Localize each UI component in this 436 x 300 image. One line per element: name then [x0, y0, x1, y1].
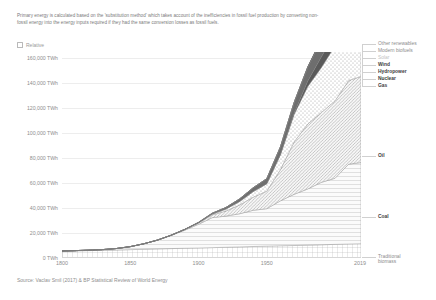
legend-item[interactable]: Nuclear [378, 76, 396, 82]
legend-leader-line [362, 79, 376, 80]
y-axis-tick-label: 80,000 TWh [30, 155, 58, 161]
legend-item[interactable]: Traditional biomass [378, 254, 412, 265]
legend-leader-line [362, 257, 376, 258]
legend-item[interactable]: Hydropower [378, 69, 407, 75]
y-axis-tick-label: 160,000 TWh [27, 55, 58, 61]
y-axis-tick-label: 100,000 TWh [27, 130, 58, 136]
legend-item[interactable]: Gas [378, 83, 387, 89]
plot-area: 0 TWh20,000 TWh40,000 TWh60,000 TWh80,00… [62, 52, 361, 258]
legend-item[interactable]: Oil [378, 153, 385, 159]
legend-item[interactable]: Solar [378, 55, 389, 61]
legend-item[interactable]: Coal [378, 214, 389, 220]
x-axis-tick-label: 2019 [354, 260, 366, 266]
legend-leader-line [362, 217, 376, 218]
legend-bracket [362, 44, 363, 86]
legend-item[interactable]: Modern biofuels [378, 48, 413, 54]
x-axis-line [62, 257, 361, 258]
relative-label: Relative [26, 42, 44, 48]
x-axis-tick-label: 1900 [193, 260, 205, 266]
y-axis-tick-label: 20,000 TWh [30, 230, 58, 236]
relative-toggle[interactable]: Relative [17, 42, 44, 48]
legend-leader-line [362, 58, 376, 59]
x-axis-tick-label: 1800 [56, 260, 68, 266]
y-axis-tick-label: 40,000 TWh [30, 205, 58, 211]
stacked-area-series [62, 52, 361, 258]
y-axis-tick-label: 140,000 TWh [27, 80, 58, 86]
chart-page: Primary energy is calculated based on th… [0, 0, 436, 300]
y-axis-tick-label: 120,000 TWh [27, 105, 58, 111]
legend-leader-line [362, 51, 376, 52]
legend-item[interactable]: Other renewables [378, 41, 417, 47]
legend-leader-line [362, 72, 376, 73]
legend-leader-line [362, 156, 376, 157]
source-note: Source: Vaclav Smil (2017) & BP Statisti… [17, 277, 168, 283]
relative-checkbox[interactable] [17, 42, 23, 48]
y-axis-tick-label: 60,000 TWh [30, 180, 58, 186]
legend-leader-line [362, 86, 376, 87]
x-axis-tick-label: 1850 [124, 260, 136, 266]
chart-subtitle: Primary energy is calculated based on th… [17, 12, 322, 27]
legend-leader-line [362, 44, 376, 45]
legend-item[interactable]: Wind [378, 62, 390, 68]
legend-leader-line [362, 65, 376, 66]
x-axis-tick-label: 1950 [261, 260, 273, 266]
